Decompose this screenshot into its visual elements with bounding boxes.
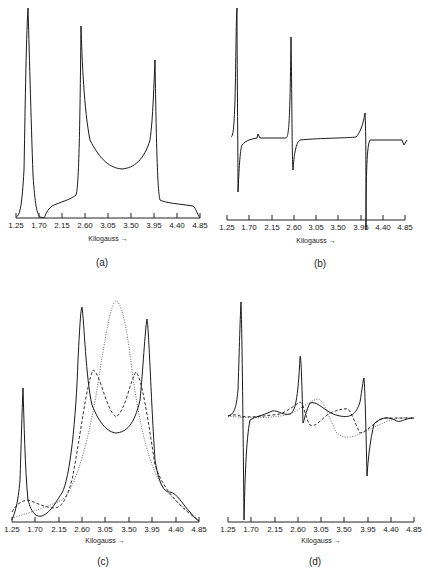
svg-text:1.25: 1.25 bbox=[8, 221, 24, 230]
panel-a: 1.25 1.70 2.15 2.60 3.05 3.50 3.95 4.40 … bbox=[8, 8, 208, 268]
panel-d: 1.25 1.70 2.15 2.60 3.05 3.50 3.95 4.40 … bbox=[220, 302, 422, 567]
svg-text:2.15: 2.15 bbox=[264, 223, 280, 232]
panel-d-tick-labels: 1.25 1.70 2.15 2.60 3.05 3.50 3.95 4.40 … bbox=[220, 525, 422, 534]
svg-text:4.40: 4.40 bbox=[383, 525, 399, 534]
panel-b-label: (b) bbox=[314, 258, 326, 269]
panel-c-ticks bbox=[12, 517, 199, 522]
svg-text:1.25: 1.25 bbox=[220, 525, 236, 534]
svg-text:3.95: 3.95 bbox=[146, 221, 162, 230]
panel-a-ticks bbox=[16, 213, 200, 218]
panel-c-x-axis-label: Kilogauss → bbox=[85, 537, 124, 545]
svg-text:3.95: 3.95 bbox=[353, 223, 369, 232]
panel-d-ticks bbox=[228, 517, 414, 522]
panel-a-label: (a) bbox=[96, 257, 108, 268]
svg-text:3.95: 3.95 bbox=[144, 525, 160, 534]
svg-text:4.40: 4.40 bbox=[169, 221, 185, 230]
panel-c-label: (c) bbox=[97, 556, 109, 567]
svg-text:3.05: 3.05 bbox=[308, 223, 324, 232]
panel-c-solid-trace bbox=[12, 307, 199, 521]
svg-text:3.50: 3.50 bbox=[330, 223, 346, 232]
panel-c: 1.25 1.70 2.15 2.60 3.05 3.50 3.95 4.40 … bbox=[4, 301, 207, 567]
panel-b-x-axis-label: Kilogauss → bbox=[296, 237, 335, 245]
svg-text:1.70: 1.70 bbox=[241, 223, 257, 232]
svg-text:4.85: 4.85 bbox=[397, 223, 413, 232]
svg-text:2.60: 2.60 bbox=[290, 525, 306, 534]
panel-c-tick-labels: 1.25 1.70 2.15 2.60 3.05 3.50 3.95 4.40 … bbox=[4, 525, 207, 534]
panel-c-dotted-trace bbox=[12, 301, 199, 521]
panel-b: 1.25 1.70 2.15 2.60 3.05 3.50 3.95 4.40 … bbox=[219, 8, 413, 269]
panel-a-x-axis-label: Kilogauss → bbox=[88, 235, 127, 243]
panel-d-solid-trace bbox=[228, 302, 414, 520]
svg-text:3.05: 3.05 bbox=[97, 525, 113, 534]
svg-text:1.70: 1.70 bbox=[243, 525, 259, 534]
panel-b-ticks bbox=[227, 215, 405, 220]
svg-text:3.50: 3.50 bbox=[123, 221, 139, 230]
svg-text:2.60: 2.60 bbox=[74, 525, 90, 534]
svg-text:2.15: 2.15 bbox=[267, 525, 283, 534]
panel-d-label: (d) bbox=[309, 556, 321, 567]
svg-text:3.05: 3.05 bbox=[100, 221, 116, 230]
svg-text:1.70: 1.70 bbox=[27, 525, 43, 534]
panel-b-solid-trace bbox=[231, 8, 407, 230]
svg-text:4.40: 4.40 bbox=[168, 525, 184, 534]
svg-text:3.50: 3.50 bbox=[121, 525, 137, 534]
svg-text:4.85: 4.85 bbox=[192, 221, 208, 230]
svg-text:4.85: 4.85 bbox=[406, 525, 422, 534]
svg-text:3.50: 3.50 bbox=[336, 525, 352, 534]
svg-text:2.15: 2.15 bbox=[51, 525, 67, 534]
svg-text:3.05: 3.05 bbox=[313, 525, 329, 534]
svg-text:1.70: 1.70 bbox=[31, 221, 47, 230]
svg-text:4.85: 4.85 bbox=[191, 525, 207, 534]
svg-text:2.60: 2.60 bbox=[77, 221, 93, 230]
svg-text:4.40: 4.40 bbox=[375, 223, 391, 232]
panel-d-x-axis-label: Kilogauss → bbox=[301, 537, 340, 545]
figure-canvas: 1.25 1.70 2.15 2.60 3.05 3.50 3.95 4.40 … bbox=[0, 0, 428, 575]
svg-text:2.15: 2.15 bbox=[54, 221, 70, 230]
svg-text:1.25: 1.25 bbox=[219, 223, 235, 232]
panel-a-solid-trace bbox=[16, 8, 200, 218]
panel-c-dashed-trace bbox=[12, 370, 199, 521]
panel-a-tick-labels: 1.25 1.70 2.15 2.60 3.05 3.50 3.95 4.40 … bbox=[8, 221, 208, 230]
panel-b-tick-labels: 1.25 1.70 2.15 2.60 3.05 3.50 3.95 4.40 … bbox=[219, 223, 413, 232]
svg-text:2.60: 2.60 bbox=[286, 223, 302, 232]
svg-text:3.95: 3.95 bbox=[360, 525, 376, 534]
svg-text:1.25: 1.25 bbox=[4, 525, 20, 534]
